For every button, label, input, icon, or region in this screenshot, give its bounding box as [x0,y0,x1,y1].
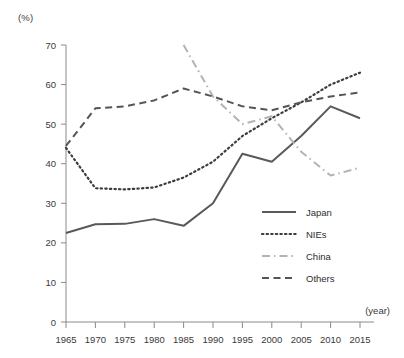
x-tick-label: 1990 [202,334,223,345]
x-tick-label: 1965 [55,334,76,345]
x-tick-label: 1970 [85,334,106,345]
x-tick-label: 1980 [144,334,165,345]
y-tick-label: 50 [45,119,56,130]
legend-group: JapanNIEsChinaOthers [262,207,335,284]
chart-container: (%) (year) 010203040506070 1965197019751… [0,0,404,358]
y-tick-label: 70 [45,40,56,51]
legend-label-china: China [306,251,332,262]
y-tick-label: 30 [45,198,56,209]
x-tick-label: 2005 [291,334,312,345]
x-tick-label: 2015 [349,334,370,345]
series-group [66,45,360,233]
x-tick-label: 1985 [173,334,194,345]
legend-label-others: Others [306,273,335,284]
x-tick-label: 1975 [114,334,135,345]
y-tick-label: 20 [45,237,56,248]
legend-label-japan: Japan [306,207,332,218]
legend-label-nies: NIEs [306,229,327,240]
y-tick-label: 10 [45,277,56,288]
x-tick-label: 1995 [232,334,253,345]
y-tick-label: 60 [45,79,56,90]
x-axis-group: 1965197019751980198519901995200020052010… [55,322,370,345]
y-axis-group: 010203040506070 [45,40,66,328]
series-line-nies [66,73,360,190]
line-chart-svg: 010203040506070 196519701975198019851990… [0,0,404,358]
y-tick-label: 0 [51,317,56,328]
x-tick-label: 2000 [261,334,282,345]
y-tick-label: 40 [45,158,56,169]
x-tick-label: 2010 [320,334,341,345]
